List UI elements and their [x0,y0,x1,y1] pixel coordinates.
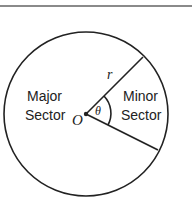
major-label-2: Sector [25,107,66,123]
circle-sector-diagram: Major Sector Minor Sector O r θ [0,0,192,213]
major-label-1: Major [27,88,62,104]
angle-arc [104,96,111,125]
center-point [84,112,88,116]
minor-label-2: Sector [121,107,162,123]
center-label: O [72,112,83,128]
angle-label: θ [95,104,101,118]
radius-label: r [107,67,113,82]
minor-label-1: Minor [123,88,158,104]
